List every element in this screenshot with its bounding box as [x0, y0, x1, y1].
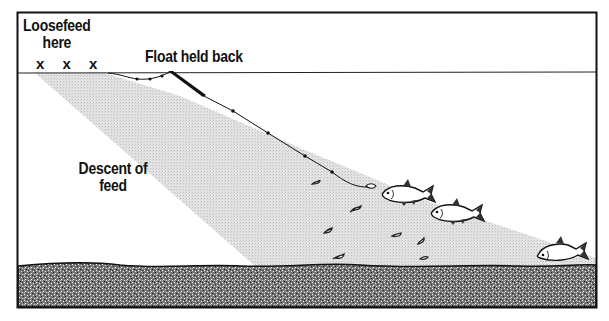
shot-weight — [231, 109, 235, 113]
water-surface — [18, 72, 596, 73]
descent-label-line1: Descent of — [72, 160, 154, 177]
shot-weight — [303, 154, 307, 158]
shot-weight — [266, 131, 270, 135]
loosefeed-label-line2: here — [22, 34, 92, 51]
float — [168, 71, 206, 97]
shot-weight — [330, 170, 334, 174]
loosefeed-label-line1: Loosefeed — [22, 17, 92, 34]
descent-label-line2: feed — [72, 177, 154, 194]
float-label: Float held back — [145, 48, 243, 65]
descent-label: Descent of feed — [72, 160, 154, 194]
river-bed — [18, 262, 596, 307]
loosefeed-label: Loosefeed here — [22, 17, 92, 51]
hook-bait — [366, 184, 376, 189]
loosefeed-marks: x x x — [36, 55, 104, 72]
